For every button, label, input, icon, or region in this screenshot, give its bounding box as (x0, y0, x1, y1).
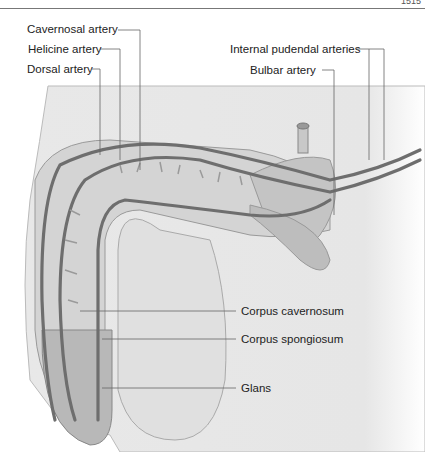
label-cavernosal-artery: Cavernosal artery (27, 22, 118, 36)
label-bulbar-artery: Bulbar artery (250, 63, 316, 77)
glans-shape (42, 330, 112, 445)
label-internal-pudendal-arteries: Internal pudendal arteries (230, 42, 360, 56)
label-corpus-cavernosum: Corpus cavernosum (241, 304, 344, 318)
label-dorsal-artery: Dorsal artery (27, 62, 93, 76)
scrotum (118, 219, 226, 440)
label-helicine-artery: Helicine artery (28, 42, 102, 56)
label-glans: Glans (241, 381, 271, 395)
label-corpus-spongiosum: Corpus spongiosum (241, 332, 343, 346)
